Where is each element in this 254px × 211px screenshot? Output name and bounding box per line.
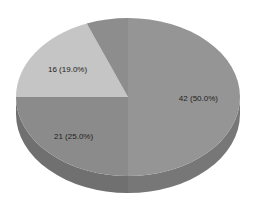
pie-chart-canvas: 42 (50.0%) 21 (25.0%) 16 (19.0%) xyxy=(0,0,254,211)
pie-chart: 42 (50.0%) 21 (25.0%) 16 (19.0%) xyxy=(0,0,254,211)
slice-label-16: 16 (19.0%) xyxy=(48,65,87,74)
slice-label-21: 21 (25.0%) xyxy=(54,132,93,141)
slice-label-42: 42 (50.0%) xyxy=(179,94,218,103)
